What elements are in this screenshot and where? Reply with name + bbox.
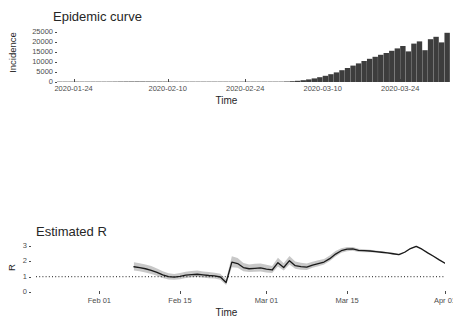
incidence-bar bbox=[129, 82, 134, 83]
epiestim-figure: Epidemic curve Incidence 050001000015000… bbox=[0, 0, 453, 327]
incidence-bar bbox=[317, 77, 322, 82]
y-tick-incidence-10000: 10000 bbox=[14, 57, 53, 66]
incidence-bar bbox=[378, 55, 383, 82]
panel-title-epidemic-curve: Epidemic curve bbox=[53, 9, 142, 24]
incidence-bar bbox=[400, 46, 405, 82]
incidence-bar bbox=[312, 78, 317, 82]
incidence-bar bbox=[373, 57, 378, 82]
incidence-bar bbox=[339, 70, 344, 82]
panel-epidemic-curve: Epidemic curve Incidence 050001000015000… bbox=[0, 0, 453, 110]
incidence-bar bbox=[395, 48, 400, 82]
incidence-bar bbox=[306, 79, 311, 82]
incidence-bar bbox=[345, 68, 350, 82]
y-tick-incidence-25000: 25000 bbox=[14, 27, 53, 36]
panel-si-distribution: Explored SI distribution Frequency 0.000… bbox=[0, 210, 453, 327]
incidence-bar bbox=[384, 53, 389, 82]
x-axis-label-incidence: Time bbox=[0, 95, 453, 106]
incidence-bars-plot bbox=[57, 30, 450, 82]
incidence-bar bbox=[367, 59, 372, 82]
x-tick-incidence-1: 2020-02-10 bbox=[134, 84, 202, 93]
x-tick-incidence-4: 2020-03-24 bbox=[366, 84, 434, 93]
incidence-bar bbox=[439, 42, 444, 82]
incidence-bar bbox=[134, 81, 139, 82]
incidence-bar bbox=[417, 41, 422, 82]
y-tick-incidence-5000: 5000 bbox=[14, 67, 53, 76]
incidence-bar bbox=[334, 72, 339, 82]
incidence-bar bbox=[428, 39, 433, 82]
x-tick-incidence-3: 2020-03-10 bbox=[289, 84, 357, 93]
y-tick-incidence-0-mark bbox=[55, 82, 58, 83]
panel-estimated-r: Estimated R R 0123 Feb 01Feb 15Mar 01Mar… bbox=[0, 110, 453, 210]
incidence-bar bbox=[356, 63, 361, 82]
x-tick-incidence-2: 2020-02-24 bbox=[211, 84, 279, 93]
x-tick-incidence-0: 2020-01-24 bbox=[40, 84, 108, 93]
incidence-bar bbox=[295, 81, 300, 82]
incidence-bar bbox=[350, 66, 355, 82]
incidence-bar bbox=[411, 44, 416, 82]
incidence-bar bbox=[323, 76, 328, 82]
y-tick-incidence-20000: 20000 bbox=[14, 37, 53, 46]
incidence-bar bbox=[433, 37, 438, 82]
y-tick-incidence-15000: 15000 bbox=[14, 47, 53, 56]
incidence-bar bbox=[140, 82, 145, 83]
incidence-bar bbox=[422, 50, 427, 82]
incidence-bar bbox=[406, 51, 411, 82]
incidence-bar bbox=[444, 33, 449, 82]
incidence-bar bbox=[301, 80, 306, 82]
incidence-bar bbox=[328, 74, 333, 82]
incidence-bar bbox=[284, 81, 289, 82]
incidence-bar bbox=[289, 81, 294, 82]
incidence-bar bbox=[361, 61, 366, 82]
incidence-bar bbox=[389, 51, 394, 82]
